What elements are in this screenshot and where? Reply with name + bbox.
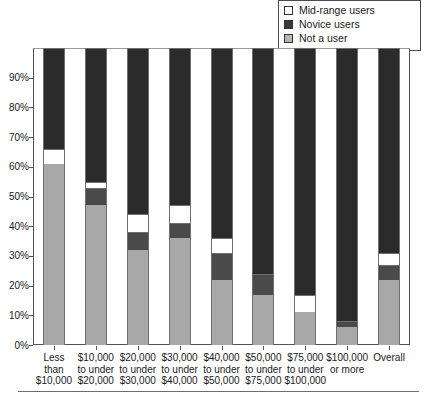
y-axis-tick: 20%	[9, 280, 33, 292]
x-axis-label-line: to under	[117, 364, 159, 376]
x-axis-tick-label: $10,000to under$20,000	[75, 352, 117, 387]
y-axis-tick: 80%	[9, 101, 33, 113]
x-axis-tick-mark	[347, 346, 348, 350]
legend-item-notauser: Not a user	[284, 32, 415, 45]
y-axis-tick: 0%	[15, 339, 33, 351]
bar-segment	[44, 149, 64, 164]
x-axis: Lessthan$10,000$10,000to under$20,000$20…	[33, 346, 410, 394]
legend-swatch-midrange-icon	[284, 6, 293, 15]
stacked-bar[interactable]	[336, 48, 358, 345]
y-axis-tick: 10%	[9, 309, 33, 321]
x-axis-tick-label: $75,000to under$100,000	[284, 352, 326, 387]
x-axis-label-line: $30,000	[117, 375, 159, 387]
stacked-bar[interactable]	[294, 48, 316, 345]
x-axis-tick-mark	[222, 346, 223, 350]
bar-group	[252, 48, 274, 345]
x-axis-label-line: $50,000	[242, 352, 284, 364]
x-axis-label-line: to under	[284, 364, 326, 376]
bar-group	[211, 48, 233, 345]
x-axis-tick-mark	[305, 346, 306, 350]
x-axis-label-line: $20,000	[117, 352, 159, 364]
x-axis-label-line: $50,000	[201, 375, 243, 387]
bar-segment	[253, 274, 273, 295]
bar-segment	[44, 48, 64, 149]
bar-segment	[128, 232, 148, 250]
x-axis-tick-label: $100,000or more	[326, 352, 368, 375]
x-axis-label-line: $75,000	[284, 352, 326, 364]
bar-segment	[212, 238, 232, 253]
y-axis-tick: 30%	[9, 250, 33, 262]
x-axis-tick-mark	[180, 346, 181, 350]
x-axis-tick-mark	[96, 346, 97, 350]
bar-segment	[253, 295, 273, 345]
bar-segment	[170, 238, 190, 345]
x-axis-label-line: $30,000	[159, 352, 201, 364]
x-axis-tick-mark	[263, 346, 264, 350]
x-axis-label-line: than	[33, 364, 75, 376]
legend-label-novice: Novice users	[299, 19, 360, 30]
x-axis-label-line: $40,000	[159, 375, 201, 387]
bar-segment	[379, 48, 399, 253]
bar-segment	[212, 253, 232, 280]
bar-segment	[295, 48, 315, 295]
bar-group	[378, 48, 400, 345]
bar-segment	[86, 48, 106, 182]
stacked-bar[interactable]	[252, 48, 274, 345]
legend-label-notauser: Not a user	[299, 33, 347, 44]
x-axis-label-line: $75,000	[242, 375, 284, 387]
bar-segment	[379, 265, 399, 280]
y-axis: 0%10%20%30%40%50%60%70%80%90%	[0, 48, 33, 345]
bar-segment	[212, 280, 232, 345]
stacked-bar[interactable]	[127, 48, 149, 345]
bar-segment	[170, 48, 190, 205]
x-axis-label-line: $20,000	[75, 375, 117, 387]
bar-segment	[128, 214, 148, 232]
x-axis-tick-label: Overall	[368, 352, 410, 364]
x-axis-tick-label: $50,000to under$75,000	[242, 352, 284, 387]
stacked-bar[interactable]	[378, 48, 400, 345]
x-axis-label-line: to under	[75, 364, 117, 376]
x-axis-tick-mark	[138, 346, 139, 350]
bar-segment	[212, 48, 232, 238]
bar-group	[85, 48, 107, 345]
bar-segment	[295, 295, 315, 313]
legend-item-midrange: Mid-range users	[284, 4, 415, 17]
stacked-bar[interactable]	[43, 48, 65, 345]
x-axis-label-line: or more	[326, 364, 368, 376]
bar-segment	[86, 205, 106, 345]
stacked-bar[interactable]	[211, 48, 233, 345]
y-axis-tick: 60%	[9, 161, 33, 173]
x-axis-tick-label: $30,000to under$40,000	[159, 352, 201, 387]
chart-legend: Mid-range users Novice users Not a user	[278, 0, 421, 51]
y-axis-tick: 70%	[9, 131, 33, 143]
bar-group	[169, 48, 191, 345]
stacked-bar-series	[33, 48, 410, 345]
legend-label-midrange: Mid-range users	[299, 5, 375, 16]
stacked-bar[interactable]	[85, 48, 107, 345]
x-axis-label-line: $100,000	[326, 352, 368, 364]
bar-group	[43, 48, 65, 345]
bar-segment	[295, 312, 315, 345]
x-axis-label-line: $10,000	[33, 375, 75, 387]
x-axis-label-line: $100,000	[284, 375, 326, 387]
bar-segment	[337, 327, 357, 345]
x-axis-tick-label: $40,000to under$50,000	[201, 352, 243, 387]
x-axis-label-line: $40,000	[201, 352, 243, 364]
bar-segment	[170, 205, 190, 223]
bar-group	[294, 48, 316, 345]
stacked-bar[interactable]	[169, 48, 191, 345]
bar-segment	[44, 164, 64, 345]
bar-segment	[128, 250, 148, 345]
bar-segment	[379, 280, 399, 345]
y-axis-tick: 40%	[9, 220, 33, 232]
bar-segment	[170, 223, 190, 238]
legend-swatch-notauser-icon	[284, 34, 293, 43]
footer-divider	[18, 391, 419, 392]
x-axis-label-line: to under	[159, 364, 201, 376]
x-axis-label-line: to under	[242, 364, 284, 376]
bar-group	[127, 48, 149, 345]
bar-segment	[379, 253, 399, 265]
x-axis-tick-label: Lessthan$10,000	[33, 352, 75, 387]
x-axis-tick-mark	[389, 346, 390, 350]
bar-segment	[86, 188, 106, 206]
